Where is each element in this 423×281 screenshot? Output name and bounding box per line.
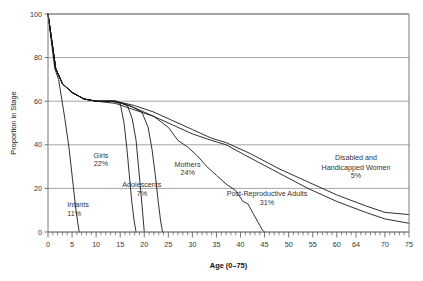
x-tick-label-20: 20 — [140, 240, 148, 249]
y-tick-label-60: 60 — [34, 97, 42, 106]
y-tick-label-100: 100 — [30, 10, 42, 19]
x-tick-label-75: 75 — [405, 240, 413, 249]
annotation-value-2: 7% — [137, 189, 148, 198]
axes-group — [48, 14, 409, 232]
x-tick-label-35: 35 — [212, 240, 220, 249]
x-tick-label-64: 64 — [352, 240, 360, 249]
x-tick-label-5: 5 — [70, 240, 74, 249]
x-tick-label-0: 0 — [46, 240, 50, 249]
x-tick-label-55: 55 — [309, 240, 317, 249]
annotation-value-6: 5% — [351, 171, 362, 180]
x-tick-label-70: 70 — [381, 240, 389, 249]
x-axis-title: Age (0–75) — [210, 261, 248, 270]
x-tick-labels-group: 051015202530354045505560647075 — [46, 240, 413, 249]
annotation-value-4: 31% — [260, 198, 275, 207]
x-tick-label-10: 10 — [92, 240, 100, 249]
series-line-1 — [48, 14, 136, 232]
x-tick-label-60: 60 — [333, 240, 341, 249]
population-stage-line-chart: 020406080100 051015202530354045505560647… — [0, 0, 423, 281]
y-tick-label-80: 80 — [34, 53, 42, 62]
y-tick-label-0: 0 — [38, 228, 42, 237]
annotation-value-1: 22% — [94, 159, 109, 168]
tick-marks-group — [45, 14, 410, 238]
y-axis-title: Proportion in Stage — [9, 91, 18, 154]
series-group — [48, 14, 409, 232]
x-tick-label-15: 15 — [116, 240, 124, 249]
annotation-label-5: Disabled and — [335, 153, 377, 162]
x-tick-label-45: 45 — [261, 240, 269, 249]
series-line-2 — [48, 14, 144, 232]
gridlines-group — [48, 14, 409, 232]
annotation-value-3: 24% — [180, 168, 195, 177]
x-tick-label-40: 40 — [237, 240, 245, 249]
x-tick-label-25: 25 — [164, 240, 172, 249]
series-line-5 — [48, 14, 409, 215]
x-tick-label-50: 50 — [285, 240, 293, 249]
chart-container: 020406080100 051015202530354045505560647… — [0, 0, 423, 281]
series-annotations-group: Infants11%Girls22%Adolescents7%Mothers24… — [67, 151, 390, 218]
x-tick-label-30: 30 — [188, 240, 196, 249]
y-tick-label-40: 40 — [34, 140, 42, 149]
y-tick-labels-group: 020406080100 — [30, 10, 42, 237]
y-tick-label-20: 20 — [34, 184, 42, 193]
annotation-value-0: 11% — [67, 209, 81, 218]
